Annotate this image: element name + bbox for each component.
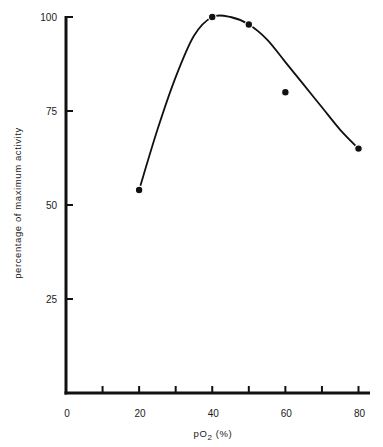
x-tick-label: 40 xyxy=(208,408,220,419)
y-tick-label: 50 xyxy=(46,200,58,211)
x-axis-ticks: 020406080 xyxy=(64,386,365,419)
data-point xyxy=(245,21,253,29)
y-tick-label: 100 xyxy=(40,12,57,23)
y-tick-label: 25 xyxy=(46,294,58,305)
x-tick-label: 0 xyxy=(64,408,70,419)
data-point xyxy=(282,88,290,96)
data-point xyxy=(208,13,216,21)
data-point xyxy=(135,186,143,194)
chart: 255075100 020406080 percentage of maximu… xyxy=(0,0,383,447)
x-axis-title-unit: (%) xyxy=(213,428,233,439)
data-point xyxy=(355,145,363,153)
y-axis-ticks: 255075100 xyxy=(40,12,73,305)
x-tick-label: 20 xyxy=(135,408,147,419)
x-axis-title-main: pO xyxy=(194,428,208,439)
x-tick-label: 60 xyxy=(281,408,293,419)
fitted-curve-path xyxy=(139,15,358,190)
x-axis-title: pO2 (%) xyxy=(194,428,233,442)
x-tick-label: 80 xyxy=(354,408,366,419)
fitted-curve xyxy=(139,15,358,190)
y-axis-title: percentage of maximum activity xyxy=(12,127,23,279)
y-tick-label: 75 xyxy=(46,106,58,117)
data-points xyxy=(135,13,362,194)
